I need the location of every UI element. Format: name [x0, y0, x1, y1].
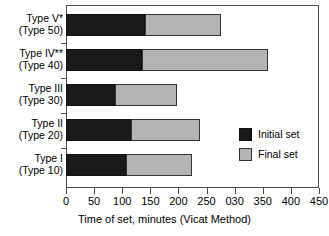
y-axis-label-line1: Type III: [29, 82, 63, 94]
bar-segment-initial-set: [66, 49, 142, 71]
y-axis-label-line2: (Type 40): [0, 60, 63, 72]
bar-row: [66, 49, 319, 71]
legend-swatch-final-icon: [239, 148, 252, 161]
legend-entry-initial: Initial set: [239, 126, 319, 144]
x-axis-tick-9: [319, 188, 320, 194]
y-axis-label-line2: (Type 10): [0, 165, 63, 177]
bar-segment-final-set: [145, 14, 221, 36]
chart-legend: Initial setFinal set: [239, 126, 319, 166]
x-axis-tick-5: [207, 188, 208, 194]
bar-segment-final-set: [131, 119, 200, 141]
bar-segment-final-set: [126, 154, 192, 176]
x-axis-tick-7: [263, 188, 264, 194]
y-axis-label-line1: Type I: [34, 152, 63, 164]
bar-chart: Type V*(Type 50)Type IV**(Type 40)Type I…: [0, 0, 329, 236]
bar-segment-initial-set: [66, 84, 115, 106]
legend-label: Initial set: [258, 127, 299, 141]
y-axis-label-2: Type IV**(Type 40): [0, 48, 63, 71]
bar-segment-initial-set: [66, 14, 145, 36]
legend-label: Final set: [258, 147, 298, 161]
y-axis-label-line2: (Type 30): [0, 95, 63, 107]
bar-row: [66, 84, 319, 106]
y-axis-label-3: Type III(Type 30): [0, 83, 63, 106]
y-axis-label-4: Type II(Type 20): [0, 118, 63, 141]
bar-segment-initial-set: [66, 119, 131, 141]
y-axis-label-line2: (Type 20): [0, 130, 63, 142]
legend-entry-final: Final set: [239, 146, 319, 164]
x-axis-tick-4: [178, 188, 179, 194]
x-axis-tick-6: [235, 188, 236, 194]
y-axis-category-labels: Type V*(Type 50)Type IV**(Type 40)Type I…: [0, 5, 63, 188]
y-axis-label-line1: Type V*: [26, 12, 63, 24]
bar-segment-final-set: [142, 49, 269, 71]
x-axis-tick-2: [122, 188, 123, 194]
x-axis-tick-8: [291, 188, 292, 194]
bar-segment-initial-set: [66, 154, 126, 176]
y-axis-tick-1: [61, 43, 67, 44]
x-axis-tick-label-9: 450: [299, 195, 329, 208]
x-axis-tick-3: [150, 188, 151, 194]
x-axis-title: Time of set, minutes (Vicat Method): [0, 213, 329, 225]
bar-row: [66, 14, 319, 36]
y-axis-tick-2: [61, 78, 67, 79]
y-axis-label-1: Type V*(Type 50): [0, 13, 63, 36]
y-axis-tick-4: [61, 148, 67, 149]
y-axis-label-5: Type I(Type 10): [0, 153, 63, 176]
y-axis-label-line1: Type IV**: [19, 47, 63, 59]
x-axis-tick-1: [94, 188, 95, 194]
bar-segment-final-set: [115, 84, 177, 106]
y-axis-tick-3: [61, 113, 67, 114]
y-axis-label-line1: Type II: [31, 117, 63, 129]
x-axis-tick-0: [66, 188, 67, 194]
y-axis-label-line2: (Type 50): [0, 25, 63, 37]
legend-swatch-initial-icon: [239, 128, 252, 141]
